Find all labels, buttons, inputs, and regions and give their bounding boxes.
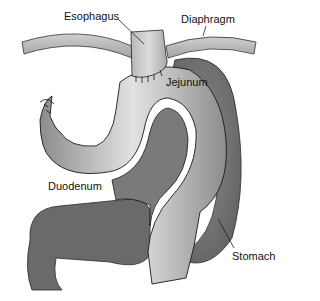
label-esophagus: Esophagus	[64, 10, 119, 22]
label-duodenum: Duodenum	[48, 180, 102, 192]
stomach-body	[27, 199, 150, 290]
label-jejunum: Jejunum	[166, 76, 208, 88]
label-stomach: Stomach	[232, 250, 275, 262]
label-diaphragm: Diaphragm	[181, 13, 235, 25]
